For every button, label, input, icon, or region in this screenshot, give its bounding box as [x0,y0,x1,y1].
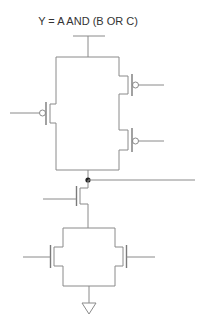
vdd-rail [73,36,105,57]
pmos-right-top [119,57,164,112]
cmos-schematic [0,0,204,333]
nmos-right [115,228,155,286]
nmos-left [23,228,63,286]
pull-down-parallel-network [23,228,155,286]
nmos-series [43,180,88,228]
pull-up-network [10,57,164,170]
pmos-right-bottom [119,112,164,170]
output-node [85,170,195,183]
pmos-left [10,57,56,170]
ground-icon [82,286,96,314]
